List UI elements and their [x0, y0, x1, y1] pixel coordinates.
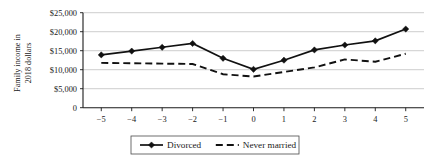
data-point-marker	[220, 55, 226, 61]
data-point-marker	[281, 57, 287, 63]
data-point-marker	[159, 44, 165, 50]
data-point-marker	[250, 66, 256, 72]
data-point-marker	[98, 52, 104, 58]
x-tick-label: 0	[251, 115, 255, 124]
x-tick-label: 3	[343, 115, 347, 124]
x-tick-label: −4	[127, 115, 137, 124]
y-axis-title-line-2: 2018 dollars	[24, 43, 33, 84]
data-point-marker	[403, 26, 409, 32]
x-tick-label: 2	[312, 115, 316, 124]
y-tick-label: $5,000	[54, 85, 77, 94]
data-point-marker	[129, 48, 135, 54]
x-tick-label: 5	[404, 115, 408, 124]
series-line-never-married	[101, 54, 405, 77]
x-tick-label: −2	[188, 115, 197, 124]
legend-label-1: Never married	[243, 140, 297, 150]
data-point-marker	[342, 42, 348, 48]
x-tick-label: −1	[219, 115, 228, 124]
data-point-marker	[311, 47, 317, 53]
y-tick-label: $15,000	[50, 47, 77, 56]
x-axis-tick-labels: −5−4−3−2−1012345	[97, 115, 408, 124]
y-tick-label: $25,000	[50, 9, 77, 18]
y-axis-tick-labels: $25,000$20,000$15,000$10,000$5,0000	[50, 9, 77, 113]
line-chart: $25,000$20,000$15,000$10,000$5,0000 −5−4…	[0, 0, 430, 163]
legend-label-0: Divorced	[167, 140, 202, 150]
y-tick-label: $20,000	[50, 28, 77, 37]
y-tick-label: 0	[73, 104, 77, 113]
x-tick-label: −3	[158, 115, 167, 124]
x-tick-label: 1	[282, 115, 286, 124]
chart-figure: $25,000$20,000$15,000$10,000$5,0000 −5−4…	[0, 0, 430, 163]
data-point-marker	[190, 40, 196, 46]
data-series-layer	[98, 26, 409, 77]
chart-legend: DivorcedNever married	[131, 136, 299, 154]
x-tick-label: −5	[97, 115, 106, 124]
data-point-marker	[372, 38, 378, 44]
y-tick-label: $10,000	[50, 66, 77, 75]
y-axis-title-line-1: Family income in	[13, 34, 22, 92]
x-tick-label: 4	[373, 115, 378, 124]
y-axis-title: Family income in 2018 dollars	[13, 34, 33, 92]
